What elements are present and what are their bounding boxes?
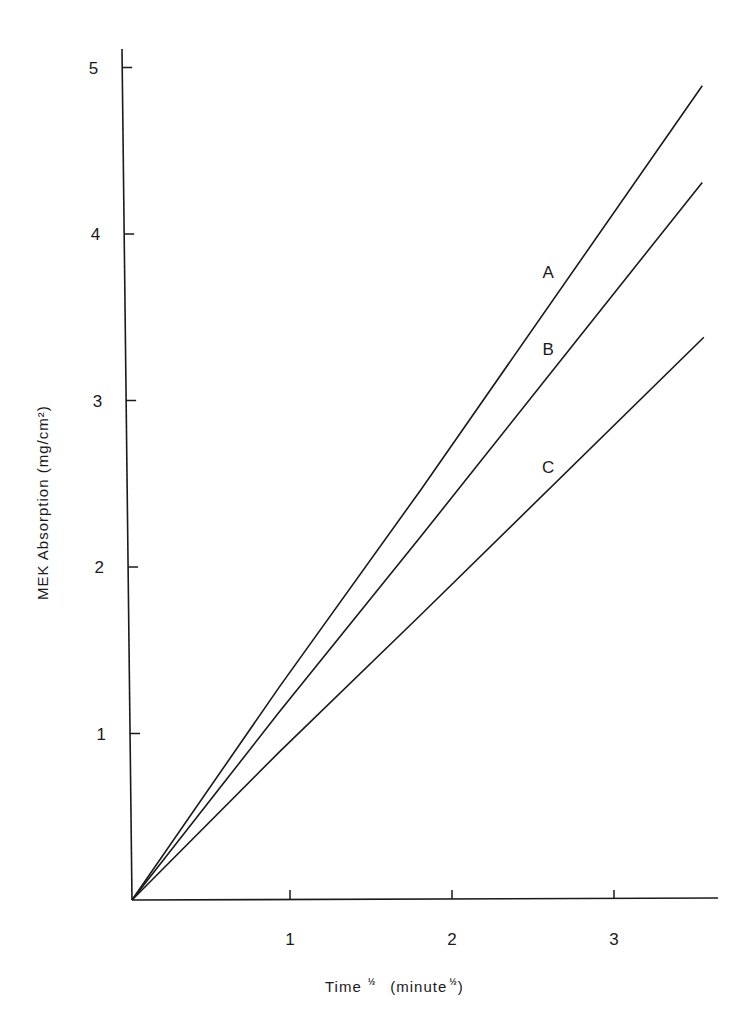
x-tick-label: 3 xyxy=(609,930,618,949)
x-tick-label: 1 xyxy=(285,930,294,949)
series-label-a: A xyxy=(543,263,555,282)
y-tick-label: 2 xyxy=(95,558,104,577)
series-label-c: C xyxy=(542,458,554,477)
y-tick-label: 1 xyxy=(97,725,106,744)
x-tick-label: 2 xyxy=(447,930,456,949)
y-tick-label: 5 xyxy=(89,59,98,78)
axes xyxy=(122,49,718,900)
x-axis xyxy=(132,898,718,900)
x-axis-title: Time½(minute½) xyxy=(325,977,464,995)
chart: 123 12345 ABC Time½(minute½) MEK Absorpt… xyxy=(0,0,749,1026)
series-line-a xyxy=(132,86,702,900)
y-tick-label: 4 xyxy=(91,225,100,244)
y-tick-label: 3 xyxy=(93,392,102,411)
y-axis xyxy=(122,49,132,900)
series-line-b xyxy=(132,182,702,900)
series-lines: ABC xyxy=(132,86,704,900)
series-label-b: B xyxy=(543,340,554,359)
y-axis-title: MEK Absorption (mg/cm²) xyxy=(34,405,51,600)
series-line-c xyxy=(132,337,704,900)
y-ticks: 12345 xyxy=(89,59,140,744)
